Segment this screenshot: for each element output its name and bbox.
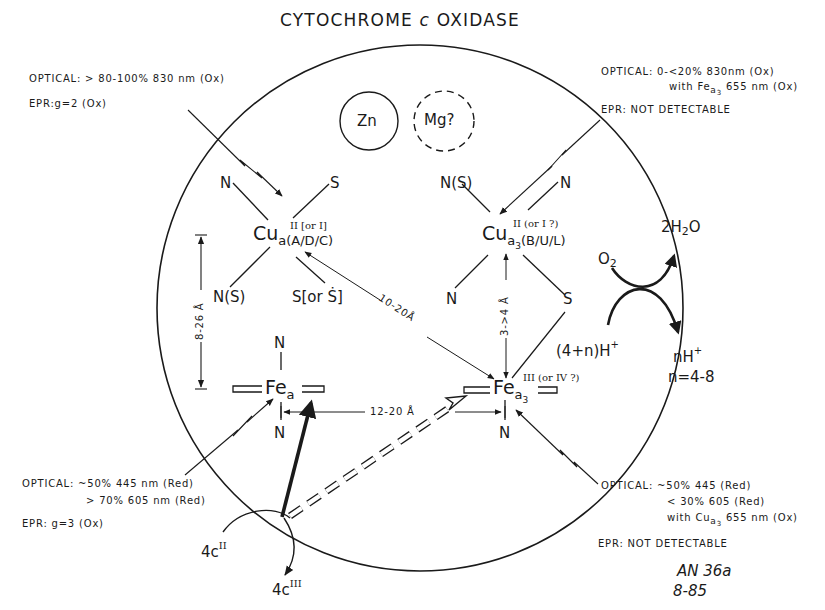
mg-label: Mg? [424,111,454,129]
fea3-ligand-n-bottom: N [499,424,510,442]
cua3-optical-pointer [500,120,600,214]
fea-optical-pointer [185,399,273,475]
title-c-italic: c [420,10,431,30]
fea-optical-line2: > 70% 605 nm (Red) [86,495,206,506]
figure-code-label: AN 36a [677,562,732,580]
fea-ligand-n-bottom: N [274,424,285,442]
fea-ligand-n-top: N [274,334,285,352]
diagram-title: CYTOCHROME c OXIDASE [280,10,520,30]
fea3-epr-text: EPR: NOT DETECTABLE [598,538,728,549]
o2-label: O2 [598,250,617,270]
fea3-optical-text: OPTICAL: ~50% 445 (Red) [601,480,751,491]
cua-ligand-s-bottom: S[or Ṡ] [292,288,343,306]
zn-label: Zn [357,112,377,130]
cua-epr-text: EPR:g=2 (Ox) [29,98,107,109]
fea3-optical-pointer [516,410,598,484]
title-text-end: OXIDASE [430,10,520,30]
cyt-c-oxidized-label: 4cIII [272,578,302,599]
cua3-ligand-n-top: N [560,174,571,192]
fea3-oxidation-state: III (or IV ?) [523,372,580,383]
figure-date-label: 8-85 [673,582,707,600]
enzyme-boundary-circle [157,45,683,571]
oxygen-reduction-arrows [608,256,678,332]
cua3-oxidation-state: II (or I ?) [513,218,558,229]
cua3-ligand-s-bottom: S [563,290,573,308]
distance-label-cua3-fea3: 3->4 Å [499,296,510,336]
protons-out-label: nH+ [673,345,702,366]
cua-ligand-n-top: N [220,174,231,192]
fea-center: Fea [265,376,295,402]
distance-label-cua-fea: 8-26 Å [194,302,205,340]
cua-ligand-s-top: S [330,174,340,192]
water-label: 2H2O [661,218,701,238]
protons-in-label: (4+n)H+ [556,339,619,360]
cua-optical-pointer [188,110,282,196]
cua-ligand-ns-bottom: N(S) [213,288,245,306]
fea-epr-text: EPR: g=3 (Ox) [22,518,104,529]
cua-oxidation-state: II [or I] [290,220,327,231]
fea3-optical-line2: < 30% 605 (Red) [667,496,765,507]
cua3-optical-text: OPTICAL: 0-<20% 830nm (Ox) [601,66,774,77]
cua3-ligand-n-bottom: N [446,290,457,308]
electron-transfer-arrow-fea [282,403,311,517]
n-range-label: n=4-8 [668,368,715,386]
cua3-ligand-ns-top: N(S) [440,174,472,192]
fea3-optical-line3: with Cua3 655 nm (Ox) [667,512,798,528]
distance-label-fea-fea3: 12-20 Å [370,406,415,417]
cyt-c-reduced-label: 4cII [201,540,227,561]
cua3-epr-text: EPR: NOT DETECTABLE [601,104,731,115]
fea-optical-text: OPTICAL: ~50% 445 nm (Red) [22,478,194,489]
cua-optical-text: OPTICAL: > 80-100% 830 nm (Ox) [29,73,225,84]
cytochrome-c-reaction-curve [223,510,294,575]
title-text: CYTOCHROME [280,10,420,30]
cua3-optical-line2: with Fea3 655 nm (Ox) [669,81,798,97]
